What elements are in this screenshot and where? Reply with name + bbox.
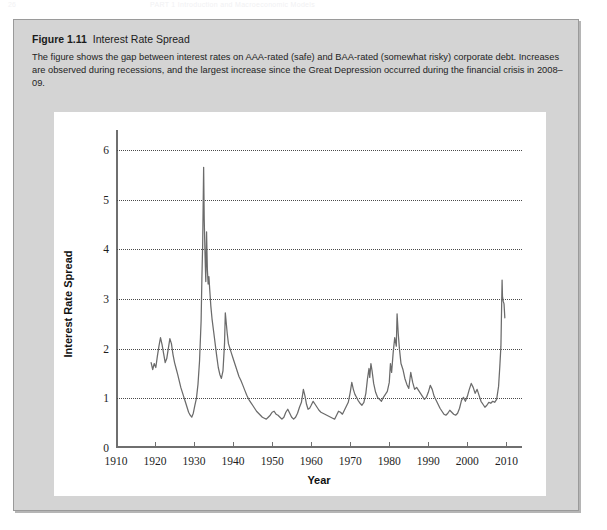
x-tick-label-1920: 1920 xyxy=(144,455,167,467)
running-title-text: PART 1 Introduction and Macroeconomic Mo… xyxy=(150,1,315,8)
y-tick-label-3: 3 xyxy=(103,293,109,305)
x-tick-label-2000: 2000 xyxy=(456,455,479,467)
interest-rate-spread-line xyxy=(151,167,505,419)
x-tick-label-1950: 1950 xyxy=(261,455,284,467)
x-tick-label-1980: 1980 xyxy=(378,455,401,467)
page-folio-number: 26 xyxy=(8,1,16,8)
figure-box: Figure 1.11Interest Rate Spread The figu… xyxy=(13,19,579,511)
y-tick-label-5: 5 xyxy=(103,194,109,206)
chart-panel: Interest Rate Spread 0123456 19101920193… xyxy=(54,112,546,496)
plot-area: 0123456 19101920193019401950196019701980… xyxy=(116,130,522,448)
x-tick-label-2010: 2010 xyxy=(495,455,518,467)
y-axis-title: Interest Rate Spread xyxy=(62,251,74,358)
y-tick-label-0: 0 xyxy=(103,442,109,454)
figure-number-label: Figure 1.11 xyxy=(32,33,87,45)
x-tick-label-1960: 1960 xyxy=(300,455,323,467)
x-tick-label-1970: 1970 xyxy=(339,455,362,467)
x-tick-label-1930: 1930 xyxy=(183,455,206,467)
page-running-header: 26 PART 1 Introduction and Macroeconomic… xyxy=(0,0,607,14)
x-tick-label-1940: 1940 xyxy=(222,455,245,467)
y-tick-label-4: 4 xyxy=(103,243,109,255)
y-tick-label-1: 1 xyxy=(103,392,109,404)
x-tick-label-1990: 1990 xyxy=(417,455,440,467)
y-tick-label-2: 2 xyxy=(103,343,109,355)
series-svg xyxy=(116,130,522,448)
y-tick-label-6: 6 xyxy=(103,144,109,156)
figure-caption: The figure shows the gap between interes… xyxy=(32,51,566,91)
figure-title: Figure 1.11Interest Rate Spread xyxy=(32,33,190,45)
plot-frame: 0123456 19101920193019401950196019701980… xyxy=(116,130,522,448)
x-tick-label-1910: 1910 xyxy=(105,455,128,467)
x-axis-title: Year xyxy=(116,474,522,486)
figure-title-text: Interest Rate Spread xyxy=(93,33,190,45)
